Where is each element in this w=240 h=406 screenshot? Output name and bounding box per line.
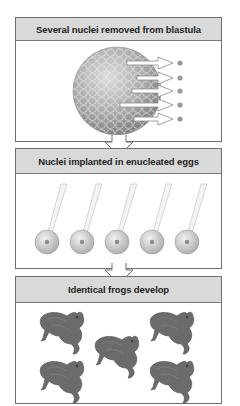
frogs-illustration bbox=[16, 303, 221, 403]
frogs-icon bbox=[16, 303, 223, 403]
eggs-illustration bbox=[16, 174, 221, 268]
pipettes-eggs-icon bbox=[16, 174, 223, 268]
step-panel-3: Identical frogs develop bbox=[15, 276, 222, 404]
egg-3 bbox=[105, 184, 137, 254]
nuclei bbox=[177, 60, 182, 121]
egg-5 bbox=[175, 184, 207, 254]
step-2-title: Nuclei implanted in enucleated eggs bbox=[16, 149, 221, 174]
frog-3 bbox=[95, 336, 139, 378]
egg-1 bbox=[35, 184, 67, 254]
step-panel-2: Nuclei implanted in enucleated eggs bbox=[15, 148, 222, 269]
blastula-illustration bbox=[16, 41, 221, 141]
frog-4 bbox=[40, 361, 84, 403]
frog-5 bbox=[150, 361, 194, 403]
step-1-title: Several nuclei removed from blastula bbox=[16, 18, 221, 41]
frog-2 bbox=[150, 312, 194, 354]
egg-2 bbox=[70, 184, 102, 254]
frog-1 bbox=[40, 312, 84, 354]
step-panel-1: Several nuclei removed from blastula bbox=[15, 17, 222, 142]
step-3-title: Identical frogs develop bbox=[16, 277, 221, 303]
blastula-icon bbox=[16, 41, 223, 141]
egg-4 bbox=[140, 184, 172, 254]
